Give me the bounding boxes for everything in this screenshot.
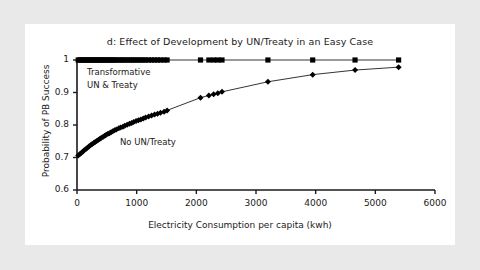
annotation-line-1: Transformative	[87, 66, 150, 79]
annotation-line-2: UN & Treaty	[87, 79, 150, 92]
y-tick-label: 1	[35, 54, 69, 64]
y-tick-label: 0.8	[35, 119, 69, 129]
marker-diamond	[211, 91, 217, 97]
plot-area	[25, 24, 455, 245]
marker-diamond	[265, 79, 271, 85]
marker-square	[219, 57, 224, 62]
marker-diamond	[310, 72, 316, 78]
annotation-no-un-treaty: No UN/Treaty	[120, 137, 176, 147]
marker-square	[396, 57, 401, 62]
x-tick-label: 2000	[173, 198, 219, 208]
x-tick-label: 5000	[352, 198, 398, 208]
y-tick-label: 0.6	[35, 184, 69, 194]
x-tick-label: 1000	[114, 198, 160, 208]
x-tick-label: 6000	[412, 198, 458, 208]
marker-diamond	[206, 92, 212, 98]
marker-square	[352, 57, 357, 62]
x-tick-label: 4000	[293, 198, 339, 208]
marker-square	[198, 57, 203, 62]
marker-square	[265, 57, 270, 62]
x-tick-label: 0	[54, 198, 100, 208]
marker-square	[310, 57, 315, 62]
marker-diamond	[352, 67, 358, 73]
marker-diamond	[396, 64, 402, 70]
marker-square	[206, 57, 211, 62]
x-tick-label: 3000	[233, 198, 279, 208]
figure-container: d: Effect of Development by UN/Treaty in…	[0, 0, 480, 270]
marker-diamond	[198, 95, 204, 101]
y-tick-label: 0.9	[35, 87, 69, 97]
chart-panel: d: Effect of Development by UN/Treaty in…	[25, 24, 455, 245]
marker-square	[164, 57, 169, 62]
y-tick-label: 0.7	[35, 152, 69, 162]
annotation-transformative-un-treaty: Transformative UN & Treaty	[87, 66, 150, 92]
